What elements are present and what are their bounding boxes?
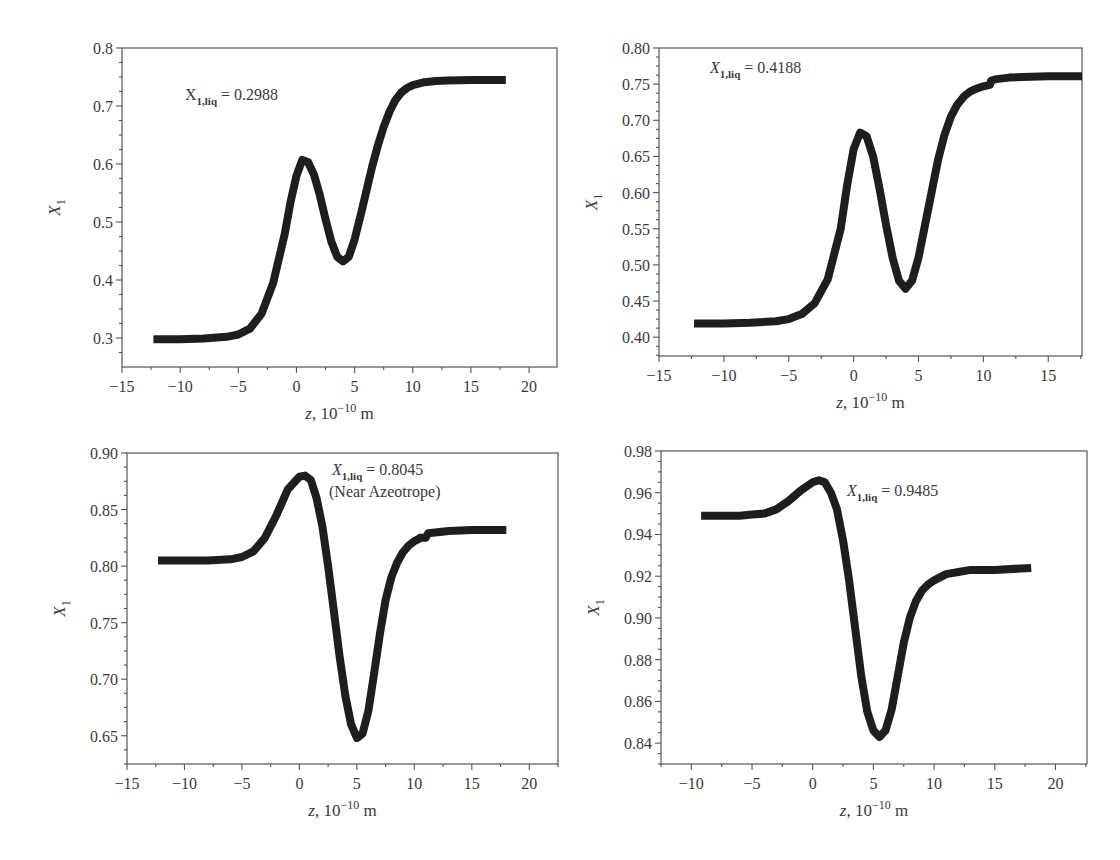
y-tick-label: 0.70 — [90, 671, 118, 688]
x-tick-label: −15 — [114, 775, 139, 792]
y-tick-label: 0.45 — [622, 293, 650, 310]
y-axis-label: X1 — [45, 199, 68, 216]
x-tick-label: 5 — [351, 378, 359, 395]
x-tick-label: −5 — [780, 367, 797, 384]
y-tick-label: 0.85 — [90, 502, 118, 519]
y-tick-label: 0.84 — [624, 735, 652, 752]
x-tick-label: 10 — [405, 378, 421, 395]
x1-profile-curve — [701, 480, 1031, 737]
y-tick-label: 0.94 — [624, 526, 652, 543]
x-tick-label: 0 — [850, 367, 858, 384]
y-tick-label: 0.90 — [624, 610, 652, 627]
x-tick-label: 0 — [295, 775, 303, 792]
y-tick-label: 0.96 — [624, 485, 652, 502]
y-axis-label: X1 — [584, 599, 607, 616]
x-tick-label: −15 — [109, 378, 134, 395]
x-tick-label: −10 — [679, 775, 704, 792]
y-tick-label: 0.8 — [93, 40, 113, 57]
y-tick-label: 0.55 — [622, 221, 650, 238]
y-tick-label: 0.75 — [622, 76, 650, 93]
y-axis-label: X1 — [50, 600, 73, 617]
y-tick-label: 0.98 — [624, 443, 652, 460]
panel-3: −15−10−5051015200.650.700.750.800.850.90… — [50, 445, 558, 820]
x1-profile-curve — [153, 80, 505, 339]
composition-annotation: X1,liq = 0.4188 — [709, 59, 801, 80]
x-tick-label: 10 — [406, 775, 422, 792]
y-tick-label: 0.50 — [622, 257, 650, 274]
x-tick-label: 15 — [987, 775, 1003, 792]
x-tick-label: 15 — [463, 378, 479, 395]
x-tick-label: 10 — [926, 775, 942, 792]
x-tick-label: −15 — [646, 367, 671, 384]
y-tick-label: 0.7 — [93, 98, 113, 115]
x-tick-label: 20 — [1047, 775, 1063, 792]
x-tick-label: −10 — [711, 367, 736, 384]
panel-2: −15−10−50510150.400.450.500.550.600.650.… — [582, 40, 1082, 412]
y-tick-label: 0.80 — [90, 558, 118, 575]
y-tick-label: 0.90 — [90, 445, 118, 462]
x-tick-label: 15 — [464, 775, 480, 792]
x-tick-label: −5 — [233, 775, 250, 792]
y-tick-label: 0.92 — [624, 568, 652, 585]
y-tick-label: 0.65 — [90, 728, 118, 745]
y-tick-label: 0.3 — [93, 330, 113, 347]
composition-annotation: X1,liq = 0.9485 — [846, 482, 938, 503]
x-tick-label: 10 — [975, 367, 991, 384]
x-tick-label: −10 — [168, 378, 193, 395]
x-tick-label: 20 — [521, 775, 537, 792]
x-tick-label: 5 — [915, 367, 923, 384]
y-tick-label: 0.40 — [622, 329, 650, 346]
azeotrope-note: (Near Azeotrope) — [329, 483, 441, 501]
y-tick-label: 0.6 — [93, 156, 113, 173]
composition-annotation: X1,liq = 0.2988 — [185, 86, 278, 107]
y-tick-label: 0.65 — [622, 148, 650, 165]
y-tick-label: 0.4 — [93, 272, 113, 289]
panel-4: −10−5051015200.840.860.880.900.920.940.9… — [584, 443, 1087, 820]
x-axis-label: z, 10−10 m — [835, 390, 904, 412]
y-tick-label: 0.88 — [624, 652, 652, 669]
panel-1: −15−10−5051015200.30.40.50.60.70.8z, 10−… — [45, 40, 557, 423]
y-tick-label: 0.60 — [622, 185, 650, 202]
x-tick-label: 0 — [809, 775, 817, 792]
figure-grid: −15−10−5051015200.30.40.50.60.70.8z, 10−… — [0, 0, 1120, 860]
y-axis-label: X1 — [582, 194, 605, 211]
x-tick-label: 5 — [869, 775, 877, 792]
y-tick-label: 0.80 — [622, 40, 650, 57]
y-tick-label: 0.86 — [624, 693, 652, 710]
x1-profile-curve — [694, 76, 1082, 323]
x-axis-label: z, 10−10 m — [307, 798, 376, 820]
x-tick-label: 5 — [353, 775, 361, 792]
x-axis-label: z, 10−10 m — [839, 798, 908, 820]
x-tick-label: 20 — [521, 378, 537, 395]
y-tick-label: 0.70 — [622, 112, 650, 129]
x-tick-label: 15 — [1040, 367, 1056, 384]
x-tick-label: −10 — [172, 775, 197, 792]
y-tick-label: 0.75 — [90, 615, 118, 632]
x-tick-label: −5 — [230, 378, 247, 395]
plot-frame — [659, 48, 1082, 356]
x-axis-label: z, 10−10 m — [304, 401, 373, 423]
x-tick-label: −5 — [744, 775, 761, 792]
composition-annotation: X1,liq = 0.8045 — [331, 461, 423, 482]
x-tick-label: 0 — [292, 378, 300, 395]
x1-profile-curve — [158, 476, 506, 738]
y-tick-label: 0.5 — [93, 214, 113, 231]
